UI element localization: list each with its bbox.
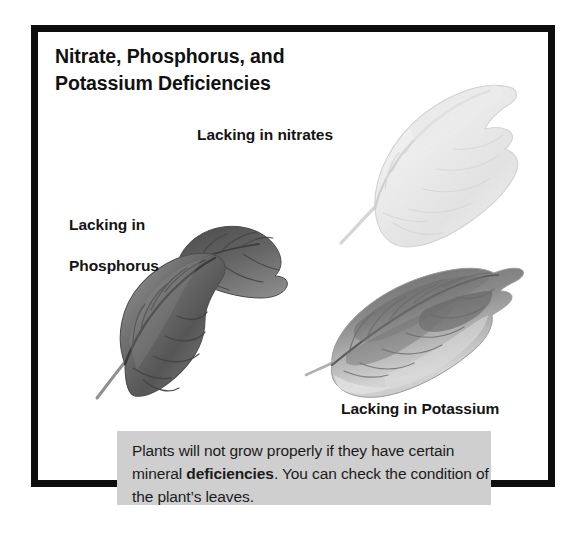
potassium-deficient-leaf-image: [298, 257, 548, 412]
label-lacking-in-potassium: Lacking in Potassium: [341, 399, 499, 419]
figure-content-area: Nitrate, Phosphorus, and Potassium Defic…: [38, 32, 548, 480]
label-phosphorus-line-1: Lacking in: [69, 216, 145, 233]
label-phosphorus-line-2: Phosphorus: [69, 257, 159, 274]
label-lacking-in-phosphorus: Lacking in Phosphorus: [69, 195, 159, 277]
caption-emphasis-deficiencies: deficiencies: [186, 465, 274, 482]
caption-text: Plants will not grow properly if they ha…: [132, 440, 491, 508]
label-lacking-in-nitrates: Lacking in nitrates: [197, 125, 333, 145]
nitrate-deficient-leaf-image: [313, 57, 548, 272]
caption-box: Plants will not grow properly if they ha…: [117, 431, 491, 505]
figure-frame: Nitrate, Phosphorus, and Potassium Defic…: [31, 25, 555, 487]
